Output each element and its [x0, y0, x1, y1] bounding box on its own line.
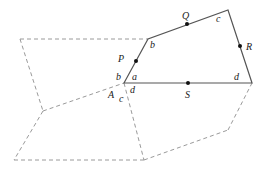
angle-label-b: b: [150, 40, 155, 50]
vertex-label-a-point: A: [108, 90, 114, 100]
dashed-edge: [20, 39, 43, 111]
geometry-diagram: PQRSAabbccdd: [0, 0, 266, 170]
point-label-p: P: [118, 54, 124, 64]
dashed-edge: [14, 111, 43, 160]
point-label-q: Q: [182, 11, 189, 21]
angle-label-a: a: [132, 72, 137, 82]
angle-label-b: b: [116, 72, 121, 82]
dashed-edge: [228, 83, 252, 130]
angle-label-d: d: [130, 85, 135, 95]
point-q-dot: [185, 22, 189, 26]
angle-label-d: d: [234, 72, 239, 82]
dashed-tiling-lines: [14, 39, 252, 160]
point-p-dot: [134, 59, 138, 63]
point-r-dot: [238, 44, 242, 48]
angle-label-c: c: [216, 14, 220, 24]
angle-label-c: c: [119, 94, 123, 104]
dashed-edge: [144, 130, 228, 160]
point-s-dot: [186, 81, 190, 85]
point-label-s: S: [185, 90, 190, 100]
marked-points: [134, 22, 242, 85]
point-label-r: R: [246, 42, 252, 52]
